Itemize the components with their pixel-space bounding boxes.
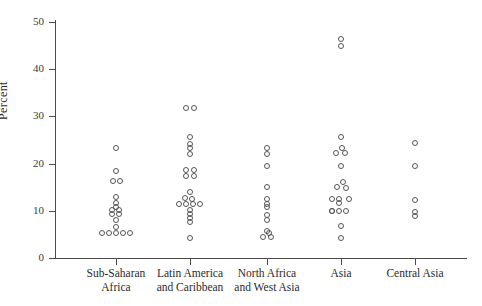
data-point <box>336 200 342 206</box>
data-point <box>176 201 182 207</box>
data-point <box>187 219 193 225</box>
data-point <box>338 223 344 229</box>
data-point <box>260 234 266 240</box>
y-tick-label: 50 <box>33 15 44 28</box>
data-point <box>183 201 189 207</box>
data-point <box>412 213 418 219</box>
data-point <box>113 224 119 230</box>
y-tick-label: 20 <box>33 157 44 170</box>
data-point <box>343 185 349 191</box>
data-point <box>264 145 270 151</box>
data-point <box>342 150 348 156</box>
data-point <box>338 163 344 169</box>
y-tick-label: 30 <box>33 109 44 122</box>
data-point <box>329 208 335 214</box>
y-axis-title: Percent <box>0 81 11 120</box>
data-point <box>336 208 342 214</box>
data-point <box>346 196 352 202</box>
data-point <box>264 163 270 169</box>
data-point <box>183 173 189 179</box>
y-tick: 20 <box>49 164 55 165</box>
data-point <box>412 163 418 169</box>
data-point <box>412 140 418 146</box>
data-point <box>334 184 340 190</box>
y-tick: 40 <box>49 69 55 70</box>
data-point <box>329 196 335 202</box>
data-point <box>113 217 119 223</box>
y-tick: 30 <box>49 116 55 117</box>
data-point <box>187 235 193 241</box>
data-point <box>191 167 197 173</box>
x-tick <box>116 259 117 265</box>
data-point <box>120 230 126 236</box>
data-point <box>99 230 105 236</box>
data-point <box>264 151 270 157</box>
data-point <box>113 230 119 236</box>
y-axis-line <box>55 20 56 259</box>
data-point <box>190 201 196 207</box>
data-point <box>187 151 193 157</box>
chart-figure: Percent 01020304050 Sub-SaharanAfricaLat… <box>0 0 482 306</box>
x-category-label-line: and West Asia <box>207 281 327 295</box>
data-point <box>343 208 349 214</box>
data-point <box>113 194 119 200</box>
data-point <box>412 197 418 203</box>
x-tick <box>341 259 342 265</box>
x-tick <box>415 259 416 265</box>
data-point <box>127 230 133 236</box>
data-point <box>338 36 344 42</box>
data-point <box>183 167 189 173</box>
data-point <box>183 105 189 111</box>
data-point <box>113 168 119 174</box>
data-point <box>264 204 270 210</box>
data-point <box>110 178 116 184</box>
scatter-plot: Percent 01020304050 Sub-SaharanAfricaLat… <box>0 0 482 306</box>
data-point <box>338 43 344 49</box>
data-point <box>113 145 119 151</box>
data-point <box>197 201 203 207</box>
y-tick-label: 40 <box>33 62 44 75</box>
data-point <box>338 134 344 140</box>
x-category-label: Central Asia <box>355 267 475 281</box>
data-point <box>264 184 270 190</box>
data-point <box>191 173 197 179</box>
data-point <box>187 134 193 140</box>
x-category-label-line: Central Asia <box>355 267 475 281</box>
data-point <box>268 234 274 240</box>
data-point <box>106 230 112 236</box>
x-tick <box>190 259 191 265</box>
data-point <box>117 178 123 184</box>
data-point <box>338 235 344 241</box>
y-tick: 10 <box>49 211 55 212</box>
data-point <box>264 217 270 223</box>
data-point <box>187 189 193 195</box>
y-tick-label: 0 <box>39 251 45 264</box>
x-tick <box>267 259 268 265</box>
y-tick: 0 <box>49 258 55 259</box>
data-point <box>191 105 197 111</box>
data-point <box>333 150 339 156</box>
y-tick-label: 10 <box>33 204 44 217</box>
y-tick: 50 <box>49 22 55 23</box>
data-point <box>182 195 188 201</box>
